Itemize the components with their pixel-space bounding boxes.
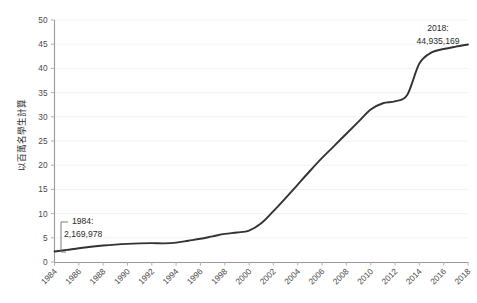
annotation-end-value: 44,935,169 (416, 36, 459, 46)
y-tick-label: 0 (43, 257, 48, 267)
y-tick-label: 25 (38, 136, 48, 146)
y-tick-label: 10 (38, 209, 48, 219)
chart-svg: 05101520253035404550 1984198619881990199… (0, 0, 477, 303)
y-tick-label: 5 (43, 233, 48, 243)
y-tick-label: 30 (38, 112, 48, 122)
annotation-end-year: 2018: (427, 23, 449, 33)
annotation-start-year: 1984: (72, 216, 94, 226)
y-axis-title: 以百萬名學生計算 (16, 99, 27, 171)
y-axis-title-text: 以百萬名學生計算 (16, 99, 27, 171)
y-tick-label: 40 (38, 63, 48, 73)
y-tick-label: 20 (38, 160, 48, 170)
y-tick-label: 45 (38, 39, 48, 49)
line-chart: 05101520253035404550 1984198619881990199… (0, 0, 477, 303)
annotation-start-value: 2,169,978 (64, 229, 102, 239)
chart-background (0, 0, 477, 303)
y-tick-label: 15 (38, 184, 48, 194)
y-tick-label: 35 (38, 88, 48, 98)
y-tick-label: 50 (38, 15, 48, 25)
